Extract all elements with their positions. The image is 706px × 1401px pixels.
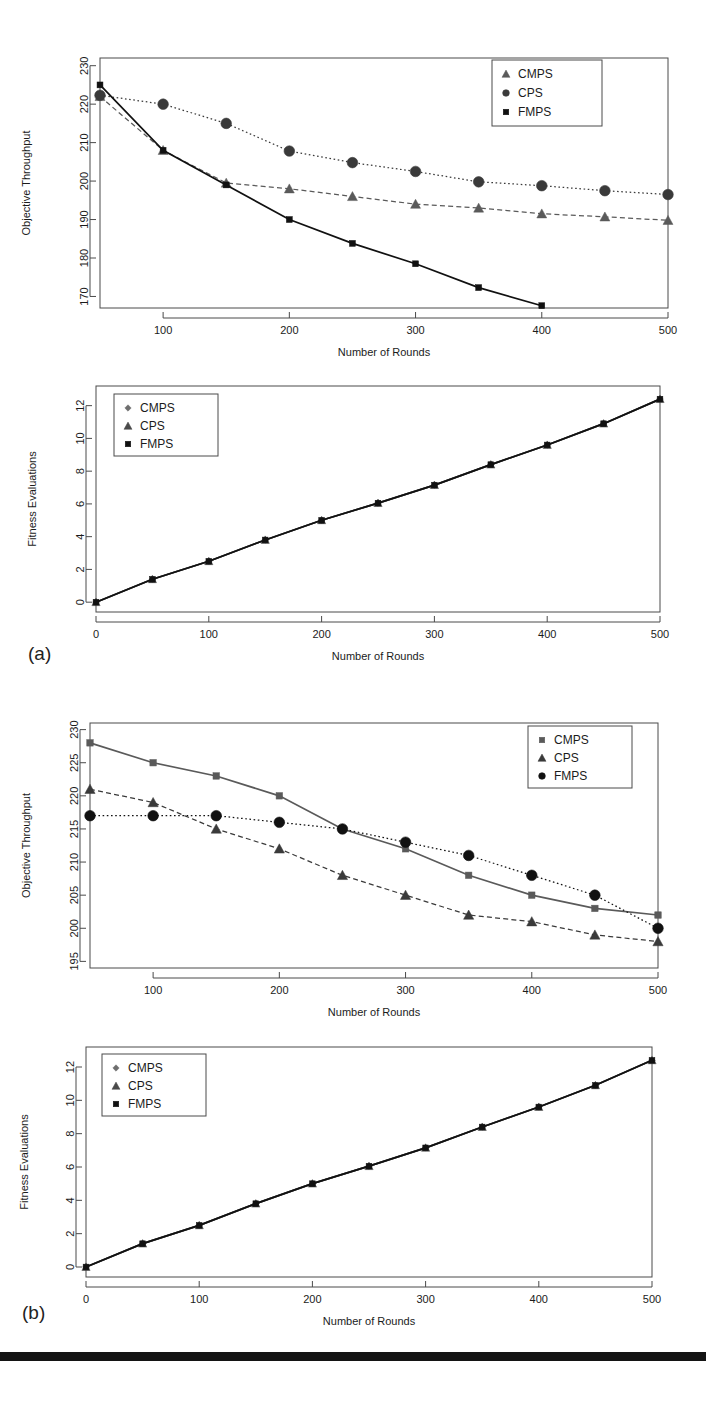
data-point-square: [655, 912, 661, 918]
legend-label-cmps: CMPS: [140, 401, 175, 415]
data-point-triangle: [464, 910, 474, 919]
chart-b-fitness-plot: 0246810120100200300400500Number of Round…: [18, 1047, 661, 1327]
y-tick-label: 200: [78, 172, 90, 190]
data-point-circle: [503, 90, 510, 97]
figure-container: 170180190200210220230100200300400500Numb…: [0, 0, 706, 1401]
y-tick-label: 12: [74, 400, 86, 412]
data-point-circle: [400, 837, 411, 848]
chart-b-throughput-svg: 195200205210215220225230100200300400500N…: [0, 700, 706, 1020]
x-tick-label: 200: [312, 628, 330, 640]
y-tick-label: 2: [74, 566, 86, 572]
data-point-circle: [663, 189, 674, 200]
data-point-square: [544, 442, 550, 448]
legend: CMPSCPSFMPS: [114, 394, 218, 456]
y-tick-label: 230: [68, 720, 80, 738]
data-point-square: [150, 759, 156, 765]
y-tick-label: 225: [68, 754, 80, 772]
data-point-square: [83, 1264, 89, 1270]
data-point-circle: [347, 157, 358, 168]
y-axis-title: Fitness Evaluations: [26, 451, 38, 547]
panel-letter-b-wrap: (b): [20, 1295, 80, 1329]
x-tick-label: 500: [649, 984, 667, 996]
panel-letter-a: (a): [28, 643, 51, 664]
data-point-square: [488, 462, 494, 468]
series-line-fmps: [100, 85, 542, 306]
y-tick-label: 220: [68, 787, 80, 805]
data-point-circle: [85, 810, 96, 821]
chart-a-fitness-panel: 0246810120100200300400500Number of Round…: [0, 372, 706, 672]
data-point-circle: [410, 166, 421, 177]
y-tick-label: 195: [68, 952, 80, 970]
y-tick-label: 0: [74, 599, 86, 605]
data-point-square: [349, 240, 355, 246]
data-point-square: [206, 558, 212, 564]
y-tick-label: 10: [64, 1094, 76, 1106]
data-point-square: [319, 517, 325, 523]
chart-b-fitness-panel: 0246810120100200300400500Number of Round…: [0, 1032, 706, 1332]
legend-label-fmps: FMPS: [128, 1097, 161, 1111]
y-axis-title: Objective Throughput: [20, 793, 32, 898]
x-tick-label: 500: [659, 324, 677, 336]
legend-label-cps: CPS: [554, 751, 579, 765]
legend: CMPSCPSFMPS: [102, 1054, 206, 1116]
x-tick-label: 100: [154, 324, 172, 336]
data-point-circle: [158, 99, 169, 110]
y-tick-label: 180: [78, 249, 90, 267]
data-point-square: [649, 1057, 655, 1063]
data-point-square: [465, 872, 471, 878]
legend-label-fmps: FMPS: [518, 105, 551, 119]
x-tick-label: 300: [406, 324, 424, 336]
data-point-square: [196, 1222, 202, 1228]
legend-label-cps: CPS: [140, 419, 165, 433]
legend-label-fmps: FMPS: [140, 437, 173, 451]
data-point-square: [87, 740, 93, 746]
data-point-square: [253, 1201, 259, 1207]
y-tick-label: 4: [74, 534, 86, 540]
series-line-cps: [90, 789, 658, 941]
data-point-triangle: [653, 937, 663, 946]
legend-label-cps: CPS: [128, 1079, 153, 1093]
y-tick-label: 230: [78, 57, 90, 75]
data-point-circle: [221, 118, 232, 129]
y-tick-label: 4: [64, 1197, 76, 1203]
data-point-square: [262, 537, 268, 543]
legend-label-fmps: FMPS: [554, 769, 587, 783]
x-tick-label: 300: [425, 628, 443, 640]
data-point-square: [366, 1163, 372, 1169]
chart-a-throughput-panel: 170180190200210220230100200300400500Numb…: [0, 40, 706, 370]
data-point-circle: [536, 180, 547, 191]
x-tick-label: 0: [83, 1293, 89, 1305]
y-tick-label: 2: [64, 1231, 76, 1237]
data-point-circle: [539, 773, 546, 780]
data-point-triangle: [274, 844, 284, 853]
chart-a-throughput-svg: 170180190200210220230100200300400500Numb…: [0, 40, 706, 370]
y-tick-label: 6: [64, 1164, 76, 1170]
legend-label-cmps: CMPS: [128, 1061, 163, 1075]
x-tick-label: 0: [93, 628, 99, 640]
x-tick-label: 400: [530, 1293, 548, 1305]
x-tick-label: 400: [523, 984, 541, 996]
data-point-circle: [211, 810, 222, 821]
chart-a-fitness-plot: 0246810120100200300400500Number of Round…: [26, 386, 669, 662]
x-axis-title: Number of Rounds: [323, 1315, 416, 1327]
data-point-square: [432, 482, 438, 488]
data-point-square: [592, 905, 598, 911]
data-point-circle: [463, 850, 474, 861]
data-point-circle: [148, 810, 159, 821]
y-axis-title: Objective Throughput: [20, 131, 32, 236]
data-point-square: [286, 217, 292, 223]
chart-a-throughput-plot: 170180190200210220230100200300400500Numb…: [20, 57, 677, 358]
data-point-square: [593, 1082, 599, 1088]
data-point-square: [276, 793, 282, 799]
data-point-square: [423, 1145, 429, 1151]
y-tick-label: 210: [78, 133, 90, 151]
panel-letter-a-wrap: (a): [26, 636, 86, 670]
x-tick-label: 200: [270, 984, 288, 996]
chart-b-fitness-svg: 0246810120100200300400500Number of Round…: [0, 1032, 706, 1332]
data-point-square: [97, 82, 103, 88]
data-point-triangle: [337, 870, 347, 879]
y-tick-label: 205: [68, 886, 80, 904]
data-point-circle: [95, 90, 106, 101]
x-tick-label: 300: [416, 1293, 434, 1305]
legend-label-cmps: CMPS: [518, 67, 553, 81]
